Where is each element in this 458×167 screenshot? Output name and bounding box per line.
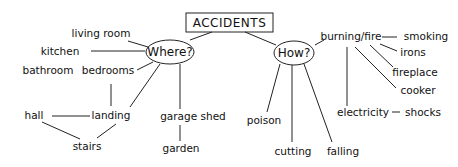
hub-node-how: How? (274, 41, 314, 65)
node-poison: poison (247, 114, 282, 126)
root-node-accidents: ACCIDENTS (186, 13, 273, 32)
node-garage-shed: garage shed (160, 110, 226, 122)
node-fireplace: fireplace (392, 66, 437, 78)
node-irons: irons (400, 46, 426, 58)
node-bathroom: bathroom (22, 64, 73, 76)
hub-label-how: How? (278, 46, 311, 60)
edge-where-bedrooms (137, 62, 153, 70)
node-living-room: living room (72, 27, 131, 39)
leaf-labels: living room kitchen bathroom bedrooms ha… (22, 27, 448, 157)
edge-accidents-where (190, 32, 212, 40)
node-hall: hall (25, 109, 44, 121)
node-cutting: cutting (275, 145, 312, 157)
edge-how-poison (267, 64, 280, 112)
edge-where-landing (130, 64, 160, 107)
connector-lines (42, 32, 400, 142)
node-electricity: electricity (337, 106, 389, 118)
edge-hall-stairs (42, 122, 80, 139)
node-stairs: stairs (73, 140, 102, 152)
node-shocks: shocks (405, 106, 441, 118)
root-label: ACCIDENTS (193, 16, 267, 30)
edge-how-falling (304, 64, 332, 142)
hub-node-where: Where? (146, 40, 194, 64)
accidents-mind-map: ACCIDENTS Where? How? living room kitche… (0, 0, 458, 167)
node-bedrooms: bedrooms (82, 64, 134, 76)
node-burning-fire: burning/fire (320, 30, 381, 42)
node-kitchen: kitchen (41, 45, 80, 57)
hub-label-where: Where? (147, 45, 192, 59)
edge-burning-irons (380, 44, 397, 51)
edge-burning-cooker (355, 47, 396, 88)
node-smoking: smoking (404, 30, 448, 42)
edge-accidents-how (245, 32, 276, 45)
node-falling: falling (327, 145, 359, 157)
edge-landing-stairs (97, 124, 116, 138)
edge-where-living-room (128, 41, 148, 47)
node-landing: landing (92, 109, 131, 121)
node-cooker: cooker (400, 84, 436, 96)
node-garden: garden (162, 142, 199, 154)
